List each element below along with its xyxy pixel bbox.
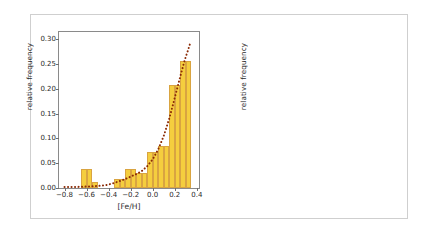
y-tick-mark	[56, 188, 59, 189]
y-tick-mark	[56, 64, 59, 65]
panel-left: 0.000.050.100.150.200.250.30 −0.8−0.6−0.…	[0, 0, 215, 236]
y-tick-label: 0.25	[40, 60, 56, 68]
y-tick-label: 0.05	[40, 159, 56, 167]
y-axis-label-right: relative frequency	[239, 22, 248, 132]
y-tick-label: 0.00	[40, 184, 56, 192]
y-tick-label: 0.15	[40, 110, 56, 118]
y-tick-mark	[56, 138, 59, 139]
y-tick-mark	[56, 39, 59, 40]
y-axis-label-left: relative frequency	[25, 22, 34, 132]
y-tick-label: 0.20	[40, 85, 56, 93]
x-tick-label: −0.8	[56, 191, 73, 199]
x-tick-label: −0.6	[78, 191, 95, 199]
y-tick-mark	[56, 114, 59, 115]
plot-area-left: 0.000.050.100.150.200.250.30 −0.8−0.6−0.…	[58, 31, 200, 189]
x-tick-label: 0.2	[169, 191, 180, 199]
x-tick-label: 0.0	[147, 191, 158, 199]
y-tick-label: 0.10	[40, 134, 56, 142]
x-tick-label: 0.4	[191, 191, 202, 199]
histogram-bar	[186, 61, 192, 188]
x-axis-label-left: [Fe/H]	[58, 202, 200, 211]
histogram-bars-left	[59, 32, 199, 188]
x-tick-label: −0.4	[100, 191, 117, 199]
x-tick-label: −0.2	[122, 191, 139, 199]
y-tick-mark	[56, 89, 59, 90]
figure-container: 0.000.050.100.150.200.250.30 −0.8−0.6−0.…	[0, 0, 430, 236]
y-tick-label: 0.30	[40, 35, 56, 43]
panel-right: 0.0000.0050.0100.0150.020 −0.8−0.6−0.4−0…	[215, 0, 430, 236]
histogram-bar	[92, 182, 98, 188]
y-tick-mark	[56, 163, 59, 164]
